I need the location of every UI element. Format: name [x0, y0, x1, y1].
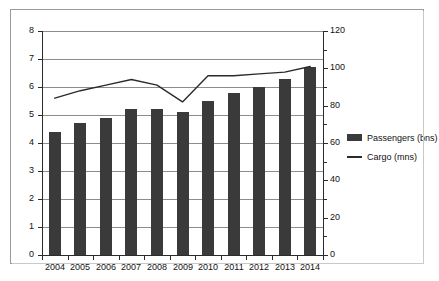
left-axis-tick — [38, 227, 42, 228]
right-axis-tick-label: 80 — [330, 100, 352, 110]
left-axis-tick — [38, 143, 42, 144]
left-axis-tick-label: 3 — [16, 165, 34, 175]
x-axis-tick — [246, 256, 247, 260]
right-axis-tick — [324, 106, 328, 107]
right-axis-tick-label: 20 — [330, 212, 352, 222]
legend-label-passengers: Passengers (bns) — [367, 133, 438, 143]
right-axis-tick — [324, 31, 328, 32]
right-axis-tick-label: 120 — [330, 25, 352, 35]
x-axis-tick — [297, 256, 298, 260]
right-axis-minor-tick — [324, 199, 327, 200]
legend-item-passengers: Passengers (bns) — [347, 130, 439, 145]
x-axis-tick-label: 2014 — [293, 262, 327, 272]
right-axis-minor-tick — [324, 87, 327, 88]
right-axis-tick — [324, 255, 328, 256]
right-axis-tick-label: 40 — [330, 174, 352, 184]
x-axis-tick — [170, 256, 171, 260]
right-axis-minor-tick — [324, 124, 327, 125]
right-axis-tick — [324, 218, 328, 219]
x-axis-tick — [144, 256, 145, 260]
left-axis-tick-label: 8 — [16, 25, 34, 35]
x-axis-tick — [272, 256, 273, 260]
x-axis-tick — [42, 256, 43, 260]
left-axis-tick — [38, 59, 42, 60]
x-axis-tick — [195, 256, 196, 260]
line-series-cargo — [42, 31, 323, 255]
right-axis-tick — [324, 68, 328, 69]
left-axis-tick — [38, 115, 42, 116]
right-axis-tick — [324, 180, 328, 181]
bottom-axis-line — [42, 255, 324, 256]
x-axis-tick — [68, 256, 69, 260]
right-axis-tick-label: 100 — [330, 62, 352, 72]
chart-frame: 012345678 020406080100120 20042005200620… — [10, 9, 424, 264]
left-axis-tick — [38, 199, 42, 200]
line-swatch-icon — [347, 156, 362, 158]
right-axis-minor-tick — [324, 162, 327, 163]
right-axis-tick — [324, 143, 328, 144]
x-axis-tick — [119, 256, 120, 260]
left-axis-tick-label: 7 — [16, 53, 34, 63]
legend-item-cargo: Cargo (mns) — [347, 149, 439, 164]
legend-label-cargo: Cargo (mns) — [367, 152, 417, 162]
chart-legend: Passengers (bns) Cargo (mns) — [347, 130, 439, 168]
bar-swatch-icon — [347, 134, 362, 141]
left-axis-tick — [38, 87, 42, 88]
x-axis-tick — [93, 256, 94, 260]
x-axis-tick — [323, 256, 324, 260]
left-axis-tick — [38, 171, 42, 172]
left-axis-tick-label: 0 — [16, 249, 34, 259]
x-axis-tick — [221, 256, 222, 260]
left-axis-tick-label: 5 — [16, 109, 34, 119]
left-axis-tick-label: 4 — [16, 137, 34, 147]
right-axis-minor-tick — [324, 236, 327, 237]
right-axis-minor-tick — [324, 50, 327, 51]
left-axis-tick-label: 1 — [16, 221, 34, 231]
left-axis-tick — [38, 31, 42, 32]
left-axis-tick-label: 6 — [16, 81, 34, 91]
right-axis-tick-label: 0 — [330, 249, 352, 259]
left-axis-tick-label: 2 — [16, 193, 34, 203]
